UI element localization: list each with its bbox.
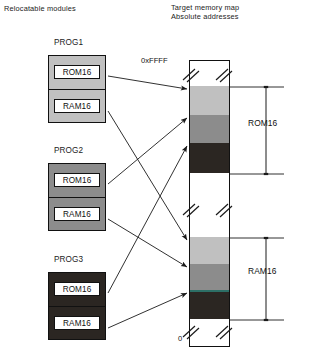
dimension-bracket-ram16 <box>230 237 284 321</box>
dimension-brackets <box>230 86 284 321</box>
break-mark-mid-left <box>183 204 199 217</box>
break-mark-mid-right <box>216 204 232 217</box>
break-marks <box>183 69 232 339</box>
vector-overlay <box>0 0 320 359</box>
break-mark-bottom-left <box>183 326 199 339</box>
break-mark-top-left <box>183 69 199 82</box>
connector-prog3-ram <box>108 293 187 328</box>
connector-arrows <box>108 76 187 328</box>
dimension-bracket-rom16 <box>230 86 284 175</box>
connector-prog3-rom <box>108 146 187 293</box>
break-mark-top-right <box>216 69 232 82</box>
connector-prog2-rom <box>108 118 187 184</box>
break-mark-bottom-right <box>216 326 232 339</box>
connector-prog1-ram <box>108 111 187 240</box>
diagram-canvas: Relocatable modules Target memory map Ab… <box>0 0 320 359</box>
connector-prog1-rom <box>108 76 187 89</box>
connector-prog2-ram <box>108 219 187 267</box>
